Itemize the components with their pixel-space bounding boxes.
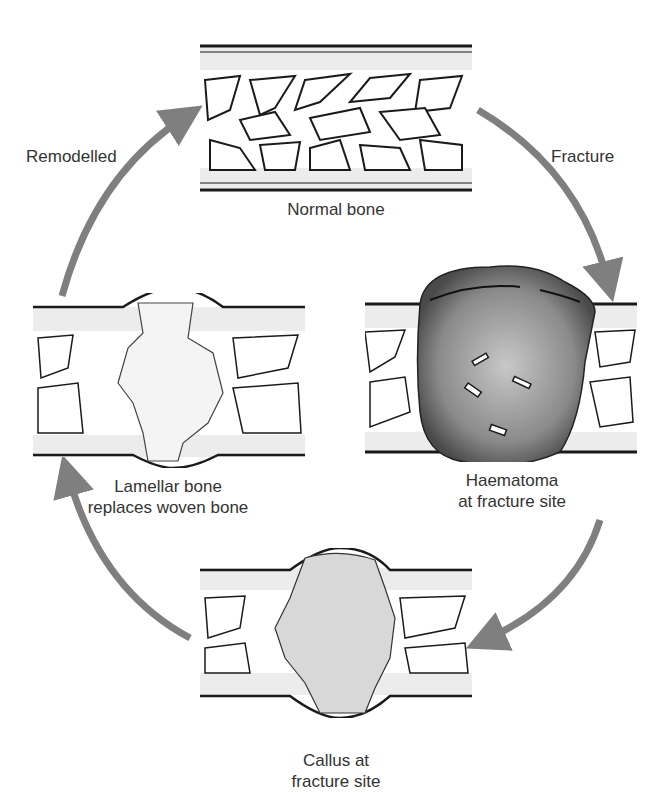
fracture-healing-diagram: Normal bone Haematoma at (0, 0, 662, 809)
label-line: at fracture site (412, 491, 612, 512)
label-line: fracture site (236, 771, 436, 792)
callus-illustration (200, 548, 472, 718)
label-callus: Callus at fracture site (236, 750, 436, 792)
label-line: Lamellar bone (68, 476, 268, 497)
label-lamellar: Lamellar bone replaces woven bone (68, 476, 268, 518)
label-haematoma: Haematoma at fracture site (412, 470, 612, 512)
normal-bone-illustration (200, 40, 472, 195)
label-normal-bone: Normal bone (236, 199, 436, 220)
label-line: Haematoma (412, 470, 612, 491)
arrow-to-callus (485, 520, 600, 640)
label-remodelled: Remodelled (26, 146, 117, 167)
label-line: Normal bone (287, 200, 384, 219)
label-fracture: Fracture (551, 146, 614, 167)
label-line: Callus at (236, 750, 436, 771)
lamellar-bone-illustration (33, 293, 305, 468)
arrow-fracture (478, 110, 608, 282)
haematoma-illustration (365, 262, 637, 462)
arrow-remodelled (62, 117, 185, 296)
label-line: replaces woven bone (68, 497, 268, 518)
